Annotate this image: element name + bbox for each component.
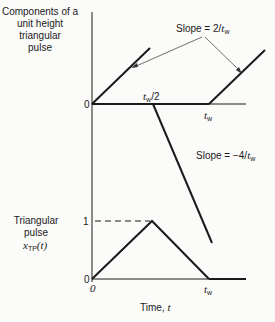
tw-label-top: tw xyxy=(204,109,213,122)
half-width-label: tw/2 xyxy=(143,90,160,103)
ramp-up-at-tw xyxy=(209,50,265,104)
top-ylabel-line-3: triangular xyxy=(19,30,61,41)
ramp-down-at-half-tw xyxy=(153,104,212,243)
slope-up-label: Slope = 2/tw xyxy=(176,22,230,35)
y-tick-1: 1 xyxy=(83,216,89,227)
triangular-pulse-diagram: Components of a unit height triangular p… xyxy=(0,0,275,322)
x-tick-0: 0 xyxy=(90,282,96,294)
triangular-pulse-curve xyxy=(92,221,209,279)
tw-label-bottom: tw xyxy=(204,283,213,296)
top-origin-label: 0 xyxy=(84,99,90,110)
slope-arrow-right xyxy=(205,37,242,74)
slope-down-label: Slope = −4/tw xyxy=(196,149,256,162)
bottom-ylabel-line-2: pulse xyxy=(24,227,48,238)
time-axis-label: Time, t xyxy=(140,301,171,313)
top-ylabel-line-1: Components of a xyxy=(2,6,79,17)
top-ylabel-line-2: unit height xyxy=(17,18,63,29)
slope-arrow-left xyxy=(131,37,202,68)
bottom-plot: Triangular pulse xTP(t) 1 0 0 tw Time, t xyxy=(14,215,246,313)
bottom-ylabel-func: xTP(t) xyxy=(22,239,48,252)
top-ylabel-line-4: pulse xyxy=(28,42,52,53)
ramp-up-at-0 xyxy=(92,48,150,104)
bottom-ylabel-line-1: Triangular xyxy=(14,215,59,226)
